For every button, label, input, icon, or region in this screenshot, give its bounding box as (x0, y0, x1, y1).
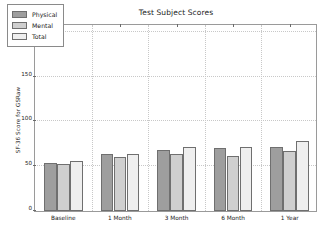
x-tick-mark (177, 24, 178, 27)
x-tick-mark (233, 24, 234, 27)
chart-title: Test Subject Scores (34, 8, 318, 17)
gridline-vertical (148, 25, 149, 211)
legend-label: Mental (32, 22, 53, 29)
bar (157, 150, 170, 211)
bar (240, 147, 253, 211)
gridline-horizontal (35, 120, 316, 121)
bar (127, 154, 140, 211)
y-tick-mark (33, 120, 36, 121)
x-tick-label: 1 Year (281, 215, 299, 221)
x-tick-label: 3 Month (165, 215, 189, 221)
chart-legend: PhysicalMentalTotal (7, 4, 64, 47)
x-tick-mark (120, 24, 121, 27)
legend-swatch-icon (12, 33, 27, 40)
bar (283, 151, 296, 211)
legend-item-physical[interactable]: Physical (12, 9, 57, 20)
bar (270, 147, 283, 211)
x-tick-label: 1 Month (108, 215, 132, 221)
x-tick-label: Baseline (51, 215, 76, 221)
x-tick-mark (290, 24, 291, 27)
bar (114, 157, 127, 211)
bar (296, 141, 309, 211)
y-tick-label: 50 (25, 160, 32, 166)
legend-swatch-icon (12, 11, 27, 18)
bar (44, 163, 57, 211)
x-tick-label: 6 Month (221, 215, 245, 221)
bar (214, 148, 227, 211)
y-tick-label: 150 (21, 71, 32, 77)
y-tick-mark (33, 210, 36, 211)
bar (101, 154, 114, 211)
plot-area: 050100150200 Baseline1 Month3 Month6 Mon… (34, 24, 317, 212)
y-tick-mark (33, 165, 36, 166)
gridline-horizontal (35, 76, 316, 77)
bar (227, 156, 240, 211)
gridline-vertical (92, 25, 93, 211)
legend-swatch-icon (12, 22, 27, 29)
bar (183, 147, 196, 211)
bar (170, 154, 183, 211)
legend-label: Total (32, 33, 46, 40)
gridline-vertical (261, 25, 262, 211)
gridline-horizontal (35, 31, 316, 32)
legend-item-total[interactable]: Total (12, 31, 57, 42)
y-tick-label: 100 (21, 115, 32, 121)
y-tick-mark (33, 76, 36, 77)
legend-label: Physical (32, 11, 57, 18)
gridline-vertical (205, 25, 206, 211)
bar (57, 164, 70, 211)
bar (70, 161, 83, 211)
legend-item-mental[interactable]: Mental (12, 20, 57, 31)
y-tick-label: 0 (28, 205, 32, 211)
chart-figure: Test Subject Scores SF-36 Score for GSRa… (0, 0, 330, 243)
